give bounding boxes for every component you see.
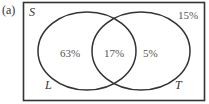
panel-label: (a) — [2, 3, 15, 17]
outside-value: 15% — [178, 9, 198, 21]
set-t-label: T — [175, 78, 183, 92]
t-only-value: 5% — [143, 47, 158, 59]
intersection-value: 17% — [104, 47, 124, 59]
l-only-value: 63% — [60, 47, 80, 59]
set-l-label: L — [44, 78, 52, 92]
venn-diagram: (a) S 15% 63% 17% 5% L T — [0, 0, 209, 104]
universe-label: S — [29, 5, 35, 19]
